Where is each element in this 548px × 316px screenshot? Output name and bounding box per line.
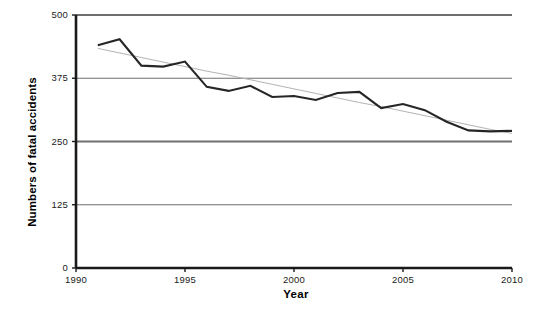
y-tick-label: 125: [34, 199, 68, 210]
x-tick-label: 1990: [51, 274, 101, 285]
x-tick-label: 2010: [487, 274, 537, 285]
y-tick-label: 500: [34, 9, 68, 20]
x-axis-title: Year: [76, 288, 516, 300]
fatal-accidents-line-chart: Numbers of fatal accidents Year 01252503…: [0, 0, 548, 316]
y-tick-label: 375: [34, 72, 68, 83]
data-series-line: [98, 39, 512, 131]
trendline-series: [98, 48, 512, 133]
plot-area: [0, 0, 548, 316]
y-tick-label: 250: [34, 136, 68, 147]
x-tick-label: 1995: [160, 274, 210, 285]
y-tick-label: 0: [34, 262, 68, 273]
x-tick-label: 2005: [378, 274, 428, 285]
x-tick-label: 2000: [269, 274, 319, 285]
